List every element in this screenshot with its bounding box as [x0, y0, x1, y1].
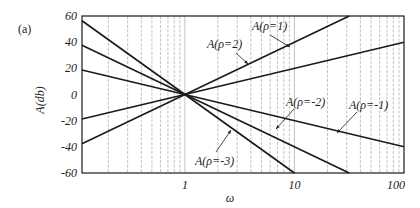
series-annotation: A(ρ=-2): [285, 95, 325, 109]
arrowhead-icon: [228, 130, 231, 134]
y-tick-label: 40: [65, 35, 77, 49]
x-axis-ticks: 110100: [182, 178, 405, 192]
x-tick-label: 100: [387, 178, 405, 192]
series-lines: [82, 16, 404, 173]
series-line: [82, 21, 294, 173]
y-tick-label: 20: [65, 61, 77, 75]
plot-frame: [82, 16, 404, 173]
x-tick-label: 10: [288, 178, 300, 192]
series-annotation: A(ρ=2): [206, 37, 242, 51]
y-tick-label: -20: [61, 114, 77, 128]
y-tick-label: 0: [71, 88, 77, 102]
y-tick-label: -40: [61, 140, 77, 154]
bode-chart: (a) 6040200-20-40-60 110100 A(db) ω A(ρ=…: [0, 0, 420, 208]
grid-lines: [108, 16, 399, 173]
x-axis-label: ω: [226, 191, 234, 205]
x-tick-label: 1: [182, 178, 188, 192]
series-annotation: A(ρ=1): [251, 19, 287, 33]
series-annotation: A(ρ=-1): [348, 98, 388, 112]
y-tick-label: 60: [65, 9, 77, 23]
y-axis-label: A(db): [33, 86, 47, 114]
annotation-arrow: [276, 109, 294, 129]
panel-label: (a): [18, 22, 31, 36]
series-annotation: A(ρ=-3): [194, 154, 234, 168]
y-tick-label: -60: [61, 166, 77, 180]
annotation-arrow: [216, 130, 231, 152]
y-axis-ticks: 6040200-20-40-60: [61, 9, 77, 180]
